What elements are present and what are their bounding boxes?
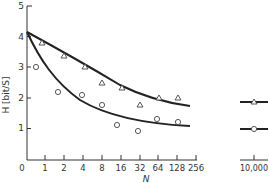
circle-marker bbox=[251, 126, 256, 131]
svg-text:256: 256 bbox=[188, 163, 204, 173]
circle-marker bbox=[79, 92, 84, 97]
triangle-fit-curve bbox=[27, 32, 190, 106]
y-axis bbox=[27, 6, 32, 160]
svg-text:8: 8 bbox=[99, 163, 104, 173]
x-axis-label: N bbox=[143, 174, 150, 183]
svg-text:0: 0 bbox=[19, 163, 24, 173]
svg-text:64: 64 bbox=[153, 163, 164, 173]
svg-text:1: 1 bbox=[18, 123, 24, 133]
svg-text:128: 128 bbox=[169, 163, 185, 173]
x-tick-labels: 0 1 2 4 8 16 32 64 128 256 10,000 bbox=[19, 163, 268, 173]
triangle-marker bbox=[156, 95, 162, 100]
circle-marker bbox=[154, 116, 159, 121]
circle-marker bbox=[175, 119, 180, 124]
circle-markers bbox=[33, 64, 256, 133]
svg-text:4: 4 bbox=[80, 163, 85, 173]
y-axis-label: H [bit/S] bbox=[1, 76, 11, 113]
svg-text:2: 2 bbox=[61, 163, 66, 173]
circle-marker bbox=[99, 102, 104, 107]
circle-marker bbox=[33, 64, 38, 69]
svg-text:1: 1 bbox=[42, 163, 47, 173]
x-axis bbox=[27, 155, 268, 160]
svg-text:16: 16 bbox=[116, 163, 127, 173]
svg-text:2: 2 bbox=[18, 93, 24, 103]
triangle-marker bbox=[175, 95, 181, 100]
circle-marker bbox=[114, 122, 119, 127]
y-tick-labels: 5 4 3 2 1 bbox=[18, 1, 24, 133]
svg-text:32: 32 bbox=[135, 163, 146, 173]
svg-text:5: 5 bbox=[18, 1, 24, 11]
svg-text:10,000: 10,000 bbox=[240, 164, 268, 173]
triangle-marker bbox=[137, 102, 143, 107]
triangle-marker bbox=[99, 80, 105, 85]
chart: 5 4 3 2 1 0 1 2 4 8 16 32 64 128 256 10,… bbox=[0, 0, 269, 183]
circle-marker bbox=[135, 128, 140, 133]
svg-text:3: 3 bbox=[18, 62, 24, 72]
svg-text:4: 4 bbox=[18, 32, 24, 42]
fit-curves bbox=[27, 32, 268, 129]
circle-marker bbox=[55, 89, 60, 94]
